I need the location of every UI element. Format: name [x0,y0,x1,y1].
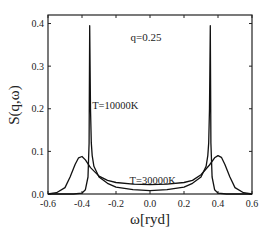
x-tick-label: 0.6 [246,198,259,209]
y-axis-label: S(q,ω) [6,85,23,124]
y-tick-label: 0.0 [32,189,45,200]
curve-t-10000k [48,26,252,194]
x-tick-label: 0.4 [212,198,225,209]
data-curves [48,26,252,194]
x-tick-label: 0.2 [178,198,191,209]
chart: -0.6-0.4-0.20.00.20.40.6 0.00.10.20.30.4… [0,0,268,236]
x-axis-label: ω[ryd] [130,211,170,227]
x-tick-label: -0.2 [108,198,124,209]
x-tick-label: 0.0 [144,198,157,209]
q-annotation: q=0.25 [131,31,162,43]
curve-label: T=10000K [92,100,139,111]
y-axis-ticks: 0.00.10.20.30.4 [32,18,253,199]
y-tick-label: 0.1 [32,146,45,157]
curve-label: T=30000K [130,175,177,186]
y-tick-label: 0.4 [32,18,45,29]
y-tick-label: 0.3 [32,61,45,72]
x-tick-label: -0.4 [74,198,90,209]
x-tick-label: -0.6 [40,198,56,209]
y-tick-label: 0.2 [32,103,45,114]
curve-labels: T=10000KT=30000K [92,100,176,186]
